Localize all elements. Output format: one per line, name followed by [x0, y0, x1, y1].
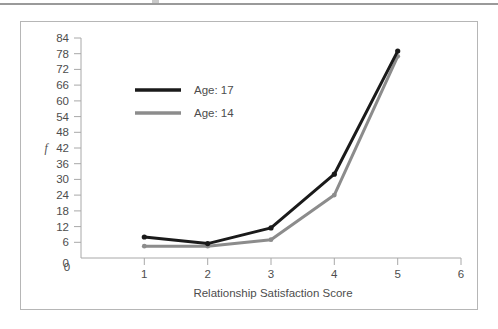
y-tick-label-6: 6 [63, 236, 69, 248]
y-axis-title: f [44, 142, 49, 155]
y-tick-label-60: 60 [56, 95, 69, 107]
y-tick-label-42: 42 [56, 142, 69, 154]
series-age-17 [142, 49, 401, 247]
x-tick-label-0: 0 [64, 261, 70, 273]
legend-item-age-14[interactable]: Age: 14 [135, 107, 234, 119]
x-tick-label-5: 5 [394, 268, 400, 280]
legend-item-age-17[interactable]: Age: 17 [135, 84, 234, 96]
y-axis: 84 78 72 66 60 54 48 42 36 30 24 18 12 6… [44, 32, 81, 269]
chart-legend: Age: 17 Age: 14 [135, 84, 234, 119]
page-top-rule [0, 3, 498, 5]
y-tick-label-84: 84 [56, 32, 69, 44]
y-tick-label-48: 48 [56, 126, 69, 138]
x-tick-label-6: 6 [458, 268, 464, 280]
x-tick-label-3: 3 [268, 268, 274, 280]
x-axis: 0 1 2 3 4 5 6 Relationship Satisfaction … [64, 258, 464, 299]
y-tick-label-66: 66 [56, 79, 69, 91]
page-top-rule-artifact [152, 0, 159, 3]
y-tick-label-30: 30 [56, 173, 69, 185]
series-line-age-14 [144, 56, 397, 246]
x-tick-label-1: 1 [141, 268, 147, 280]
legend-label-age-14: Age: 14 [194, 107, 234, 119]
y-tick-label-12: 12 [56, 221, 69, 233]
y-tick-label-78: 78 [56, 48, 69, 60]
y-tick-label-18: 18 [56, 205, 69, 217]
x-tick-label-2: 2 [204, 268, 210, 280]
data-point-age-17-x5 [395, 49, 400, 54]
data-point-age-17-x4 [332, 172, 337, 177]
y-tick-label-36: 36 [56, 158, 69, 170]
data-point-age-17-x3 [268, 225, 273, 230]
x-axis-title: Relationship Satisfaction Score [193, 287, 352, 299]
data-point-age-14-x1 [142, 244, 147, 249]
data-point-age-17-x1 [142, 234, 147, 239]
figure-page: 84 78 72 66 60 54 48 42 36 30 24 18 12 6… [0, 0, 498, 329]
legend-label-age-17: Age: 17 [194, 84, 234, 96]
data-point-age-14-x3 [269, 237, 274, 242]
data-point-age-14-x4 [332, 193, 337, 198]
series-age-14 [142, 54, 400, 249]
line-chart: 84 78 72 66 60 54 48 42 36 30 24 18 12 6… [21, 22, 477, 309]
y-tick-label-72: 72 [56, 63, 69, 75]
y-tick-label-24: 24 [56, 189, 69, 201]
chart-figure-frame: 84 78 72 66 60 54 48 42 36 30 24 18 12 6… [20, 21, 478, 310]
y-tick-label-54: 54 [56, 111, 69, 123]
data-point-age-17-x2 [205, 241, 210, 246]
series-line-age-17 [144, 51, 397, 244]
x-tick-label-4: 4 [331, 268, 338, 280]
